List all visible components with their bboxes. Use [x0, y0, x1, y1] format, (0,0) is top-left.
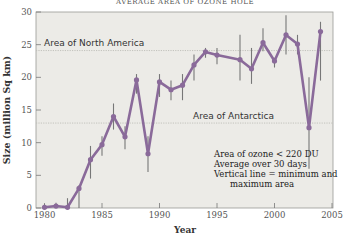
data-point: [122, 134, 127, 139]
y-tick-label: 25: [21, 40, 32, 50]
note-line-1: Area of ozone < 220 DU: [213, 149, 319, 159]
data-point: [65, 205, 70, 210]
data-point: [295, 41, 300, 46]
ref-label-antarctica: Area of Antarctica: [193, 111, 274, 121]
data-point: [214, 53, 219, 58]
y-tick-label: 5: [27, 170, 32, 180]
x-tick-label: 1980: [34, 210, 56, 220]
y-tick-label: 20: [21, 72, 32, 82]
note-line-4: maximum area: [230, 179, 294, 189]
data-point: [260, 40, 265, 45]
data-point: [157, 79, 162, 84]
x-tick-label: 1985: [91, 210, 113, 220]
data-point: [272, 58, 277, 63]
data-point: [99, 142, 104, 147]
note-line-3: Vertical line = minimum and: [213, 169, 338, 179]
x-tick-label: 2000: [264, 210, 286, 220]
data-point: [318, 29, 323, 34]
data-point: [134, 77, 139, 82]
chart-title: AVERAGE AREA OF OZONE HOLE: [115, 0, 254, 6]
y-axis-label: Size (million Sq km): [1, 56, 12, 165]
data-point: [88, 157, 93, 162]
data-point: [306, 125, 311, 130]
data-point: [191, 62, 196, 67]
y-tick-label: 30: [21, 7, 32, 17]
data-point: [111, 114, 116, 119]
data-point: [168, 87, 173, 92]
data-point: [203, 49, 208, 54]
ozone-hole-chart: AVERAGE AREA OF OZONE HOLE 051015202530 …: [0, 0, 344, 237]
data-point: [283, 32, 288, 37]
data-point: [145, 151, 150, 156]
note-line-2: Average over 30 days: [213, 159, 307, 169]
data-point: [249, 66, 254, 71]
ref-label-north-america: Area of North America: [44, 38, 144, 48]
x-tick-label: 1990: [149, 210, 171, 220]
data-point: [237, 57, 242, 62]
data-point: [180, 83, 185, 88]
y-tick-label: 0: [27, 203, 32, 213]
data-point: [53, 203, 58, 208]
data-point: [76, 186, 81, 191]
x-tick-label: 2005: [321, 210, 343, 220]
y-tick-label: 15: [21, 105, 32, 115]
y-tick-label: 10: [21, 138, 32, 148]
x-tick-label: 1995: [206, 210, 228, 220]
data-point: [42, 205, 47, 210]
x-axis-label: Year: [173, 225, 196, 235]
